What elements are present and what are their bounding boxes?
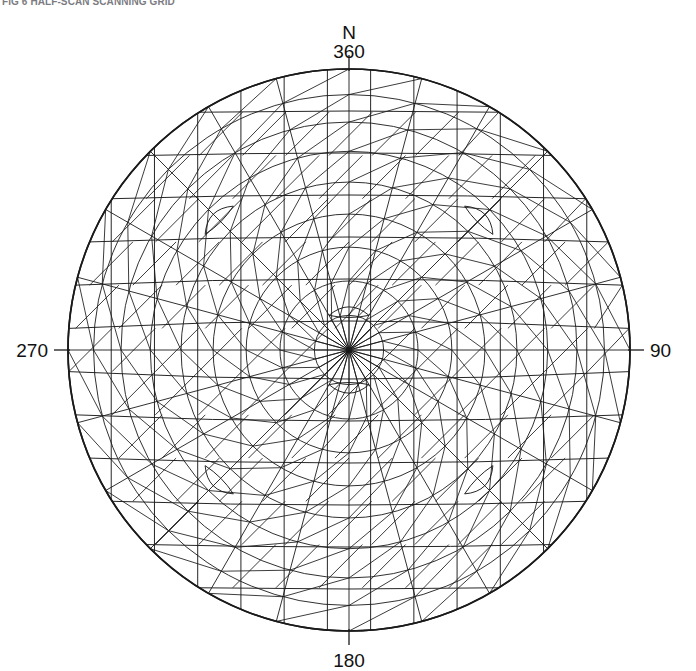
meridian-line xyxy=(209,350,350,593)
mesh-diagonal xyxy=(417,423,422,468)
brace-diagonal xyxy=(328,199,371,242)
mesh-diagonal xyxy=(530,169,593,209)
mesh-diagonal xyxy=(230,468,281,469)
meridian-line xyxy=(150,350,349,549)
projection-net-svg: N 360 90 180 270 xyxy=(0,0,696,671)
brace-diagonal xyxy=(594,285,622,328)
mesh-diagonal xyxy=(314,453,349,481)
mesh-diagonal xyxy=(494,266,540,299)
mesh-diagonal xyxy=(510,189,570,222)
mesh-diagonal xyxy=(253,254,260,299)
mesh-diagonal xyxy=(521,251,569,291)
mesh-diagonal xyxy=(177,449,230,468)
mesh-diagonal xyxy=(188,129,221,189)
mesh-diagonal xyxy=(398,399,401,439)
mesh-diagonal xyxy=(448,323,485,350)
brace-diagonal xyxy=(276,545,319,588)
mesh-diagonal xyxy=(281,449,322,467)
mesh-diagonal xyxy=(445,254,494,266)
mesh-diagonal xyxy=(349,449,376,486)
brace-diagonal xyxy=(545,199,586,242)
brace-diagonal xyxy=(199,199,242,242)
brace-diagonal xyxy=(465,285,508,328)
brace-diagonal xyxy=(286,112,329,155)
mesh-diagonal xyxy=(548,478,571,549)
mesh-diagonal xyxy=(490,434,495,491)
mesh-diagonal xyxy=(366,380,367,417)
mesh-diagonal xyxy=(349,481,384,518)
meridian-line xyxy=(150,151,349,350)
mesh-diagonal xyxy=(604,350,620,423)
mesh-diagonal xyxy=(400,495,433,541)
south-bearing-label: 180 xyxy=(333,650,365,671)
brace-diagonal xyxy=(415,501,458,544)
mesh-diagonal xyxy=(128,478,188,511)
brace-diagonal xyxy=(119,415,162,458)
brace-diagonal xyxy=(146,155,189,198)
mesh-diagonal xyxy=(106,491,169,531)
mesh-diagonal xyxy=(340,281,349,317)
brace-diagonal xyxy=(329,112,372,155)
brace-diagonal xyxy=(285,199,328,242)
mesh-diagonal xyxy=(265,158,298,204)
brace-diagonal xyxy=(372,501,415,544)
mesh-diagonal xyxy=(548,350,569,409)
mesh-diagonal xyxy=(221,79,276,129)
mesh-diagonal xyxy=(448,469,467,522)
mesh-diagonal xyxy=(331,247,349,283)
mesh-diagonal xyxy=(209,491,266,496)
brace-diagonal xyxy=(551,415,594,458)
brace-diagonal xyxy=(205,415,248,458)
brace-diagonal xyxy=(501,501,544,544)
brace-diagonal xyxy=(508,415,551,458)
mesh-diagonal xyxy=(280,350,316,359)
east-bearing-label: 90 xyxy=(650,340,671,361)
mesh-diagonal xyxy=(221,570,290,571)
mesh-diagonal xyxy=(187,307,213,350)
mesh-diagonal xyxy=(490,531,530,594)
mesh-diagonal xyxy=(392,178,448,188)
net-geometry xyxy=(54,55,644,645)
mesh-diagonal xyxy=(569,409,570,478)
brace-diagonal xyxy=(319,545,362,588)
mesh-diagonal xyxy=(276,605,349,621)
mesh-diagonal xyxy=(349,130,408,151)
brace-diagonal xyxy=(372,199,415,242)
mesh-diagonal xyxy=(181,350,218,385)
brace-diagonal xyxy=(501,372,544,415)
brace-diagonal xyxy=(242,112,285,155)
mesh-diagonal xyxy=(433,205,490,210)
mesh-diagonal xyxy=(314,182,349,219)
mesh-diagonal xyxy=(204,434,253,446)
mesh-diagonal xyxy=(467,418,468,469)
mesh-diagonal xyxy=(468,231,521,250)
mesh-diagonal xyxy=(433,446,445,495)
mesh-diagonal xyxy=(283,578,349,597)
mesh-diagonal xyxy=(246,350,282,368)
brace-diagonal xyxy=(319,155,362,198)
mesh-diagonal xyxy=(298,261,301,301)
mesh-diagonal xyxy=(349,79,422,95)
mesh-diagonal xyxy=(213,350,250,377)
north-bearing-label: 360 xyxy=(333,41,365,62)
meridian-line xyxy=(349,350,548,549)
brace-diagonal xyxy=(465,415,508,458)
brace-diagonal xyxy=(328,501,371,544)
west-bearing-label: 270 xyxy=(16,340,48,361)
brace-diagonal xyxy=(112,199,155,242)
brace-diagonal xyxy=(199,112,242,155)
mesh-diagonal xyxy=(485,350,511,393)
brace-diagonal xyxy=(501,199,544,242)
mesh-diagonal xyxy=(376,232,417,250)
brace-diagonal xyxy=(242,501,285,544)
mesh-diagonal xyxy=(250,512,306,522)
brace-diagonal xyxy=(249,415,292,458)
brace-diagonal xyxy=(199,372,242,415)
mesh-diagonal xyxy=(438,401,445,446)
north-letter-label: N xyxy=(342,22,356,43)
brace-diagonal xyxy=(378,285,421,328)
mesh-diagonal xyxy=(253,439,298,446)
mesh-diagonal xyxy=(511,393,521,449)
brace-diagonal xyxy=(372,112,415,155)
mesh-diagonal xyxy=(349,103,415,122)
